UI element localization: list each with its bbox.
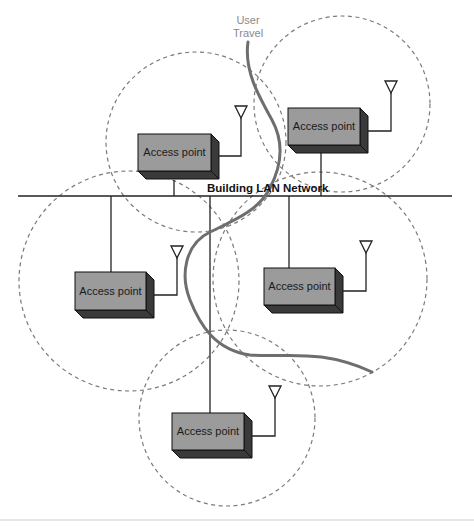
access-point-label: Access point [79, 285, 141, 297]
access-point-middle-right: Access point [264, 241, 372, 313]
antenna-lead [368, 93, 391, 131]
antenna-lead [343, 253, 366, 291]
access-point-top-left: Access point [138, 106, 247, 179]
antenna-icon [171, 246, 183, 258]
antenna-lead [154, 258, 177, 295]
antenna-lead [252, 398, 275, 436]
access-point-label: Access point [177, 425, 239, 437]
access-point-bottom: Access point [172, 386, 281, 458]
antenna-icon [360, 241, 372, 253]
user-travel-path [185, 42, 372, 372]
access-point-top-right: Access point [288, 81, 397, 153]
access-point-label: Access point [143, 146, 205, 158]
wireless-roaming-diagram: User Travel Building LAN Network Access … [0, 0, 474, 532]
access-point-middle-left: Access point [75, 246, 183, 318]
access-point-label: Access point [268, 280, 330, 292]
antenna-icon [235, 106, 247, 118]
access-point-label: Access point [293, 120, 355, 132]
user-travel-label-line1: User [236, 14, 260, 26]
network-label: Building LAN Network [207, 182, 329, 194]
bottom-divider [0, 519, 474, 521]
antenna-icon [385, 81, 397, 93]
antenna-lead [219, 118, 241, 156]
antenna-icon [269, 386, 281, 398]
coverage-area-top-right [254, 16, 430, 192]
user-travel-label-line2: Travel [233, 27, 263, 39]
